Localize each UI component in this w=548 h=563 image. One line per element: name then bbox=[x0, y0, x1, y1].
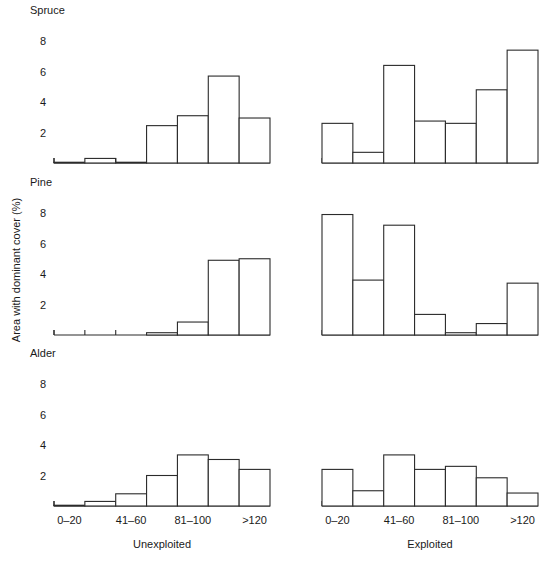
x-tick-label-0-1: 41–60 bbox=[116, 514, 147, 526]
y-tick-label-6: 6 bbox=[40, 238, 46, 250]
chart-canvas: Spruce2468Pine2468Alder24680–2041–6081–1… bbox=[0, 0, 548, 563]
y-tick-label-4: 4 bbox=[40, 439, 46, 451]
x-tick-label-1-1: 41–60 bbox=[384, 514, 415, 526]
y-tick-label-8: 8 bbox=[40, 378, 46, 390]
bar-spruce-1-2 bbox=[384, 65, 415, 163]
x-tick-label-0-0: 0–20 bbox=[57, 514, 81, 526]
x-tick-label-1-2: 81–100 bbox=[442, 514, 479, 526]
y-tick-label-8: 8 bbox=[40, 207, 46, 219]
bar-spruce-0-3 bbox=[147, 126, 178, 163]
bar-spruce-1-3 bbox=[415, 121, 446, 163]
bar-alder-1-0 bbox=[322, 469, 353, 506]
bar-pine-1-0 bbox=[322, 215, 353, 335]
bar-alder-0-1 bbox=[85, 501, 116, 506]
bar-spruce-1-6 bbox=[507, 50, 538, 163]
bar-pine-0-3 bbox=[147, 333, 178, 335]
bar-pine-1-3 bbox=[415, 314, 446, 335]
y-tick-label-2: 2 bbox=[40, 299, 46, 311]
series-exploited-spruce bbox=[322, 50, 538, 163]
y-tick-label-8: 8 bbox=[40, 35, 46, 47]
bar-spruce-1-4 bbox=[445, 123, 476, 163]
series-exploited-pine bbox=[322, 215, 538, 335]
panel-pine: Pine2468 bbox=[30, 176, 538, 335]
bar-spruce-0-0 bbox=[54, 162, 85, 163]
bar-alder-1-2 bbox=[384, 455, 415, 506]
bar-pine-1-6 bbox=[507, 283, 538, 335]
bar-alder-1-6 bbox=[507, 493, 538, 506]
bar-spruce-0-1 bbox=[85, 158, 116, 163]
x-tick-label-0-2: 81–100 bbox=[174, 514, 211, 526]
bar-alder-0-2 bbox=[116, 494, 147, 506]
column-axis-label-exploited: Exploited bbox=[407, 538, 452, 550]
x-tick-label-0-3: >120 bbox=[242, 514, 267, 526]
y-tick-label-6: 6 bbox=[40, 409, 46, 421]
bar-spruce-0-6 bbox=[239, 118, 270, 163]
series-unexploited-alder: 0–2041–6081–100>120Unexploited bbox=[54, 455, 270, 550]
y-tick-label-2: 2 bbox=[40, 470, 46, 482]
bar-pine-1-4 bbox=[445, 333, 476, 335]
panel-spruce: Spruce2468 bbox=[30, 4, 538, 163]
column-axis-label-unexploited: Unexploited bbox=[133, 538, 191, 550]
panel-alder: Alder24680–2041–6081–100>120Unexploited0… bbox=[30, 347, 538, 550]
bar-spruce-0-4 bbox=[177, 116, 208, 163]
bar-alder-1-3 bbox=[415, 469, 446, 506]
bar-spruce-1-5 bbox=[476, 90, 507, 163]
bar-alder-1-4 bbox=[445, 466, 476, 506]
bar-alder-0-0 bbox=[54, 505, 85, 506]
panel-title-alder: Alder bbox=[30, 347, 56, 359]
bar-alder-0-4 bbox=[177, 455, 208, 506]
x-tick-label-1-0: 0–20 bbox=[325, 514, 349, 526]
y-tick-label-4: 4 bbox=[40, 268, 46, 280]
bar-pine-1-2 bbox=[384, 225, 415, 335]
bar-alder-0-6 bbox=[239, 469, 270, 506]
bar-spruce-1-1 bbox=[353, 152, 384, 163]
x-tick-label-1-3: >120 bbox=[510, 514, 535, 526]
bar-pine-1-1 bbox=[353, 280, 384, 335]
bar-alder-0-5 bbox=[208, 459, 239, 506]
series-unexploited-pine bbox=[54, 259, 270, 335]
bar-alder-0-3 bbox=[147, 476, 178, 507]
bar-alder-1-5 bbox=[476, 478, 507, 506]
bar-spruce-0-2 bbox=[116, 162, 147, 163]
bar-pine-0-5 bbox=[208, 260, 239, 335]
series-unexploited-spruce bbox=[54, 76, 270, 163]
series-exploited-alder: 0–2041–6081–100>120Exploited bbox=[322, 455, 538, 550]
bar-spruce-1-0 bbox=[322, 123, 353, 163]
bar-pine-1-5 bbox=[476, 324, 507, 335]
y-tick-label-6: 6 bbox=[40, 66, 46, 78]
y-tick-label-4: 4 bbox=[40, 96, 46, 108]
y-axis-label: Area with dominant cover (%) bbox=[10, 198, 22, 342]
y-tick-label-2: 2 bbox=[40, 127, 46, 139]
panel-title-spruce: Spruce bbox=[30, 4, 65, 16]
histogram-figure: Spruce2468Pine2468Alder24680–2041–6081–1… bbox=[0, 0, 548, 563]
bar-pine-0-4 bbox=[177, 322, 208, 335]
bar-spruce-0-5 bbox=[208, 76, 239, 163]
bar-pine-0-6 bbox=[239, 259, 270, 335]
panel-title-pine: Pine bbox=[30, 176, 52, 188]
bar-alder-1-1 bbox=[353, 491, 384, 506]
